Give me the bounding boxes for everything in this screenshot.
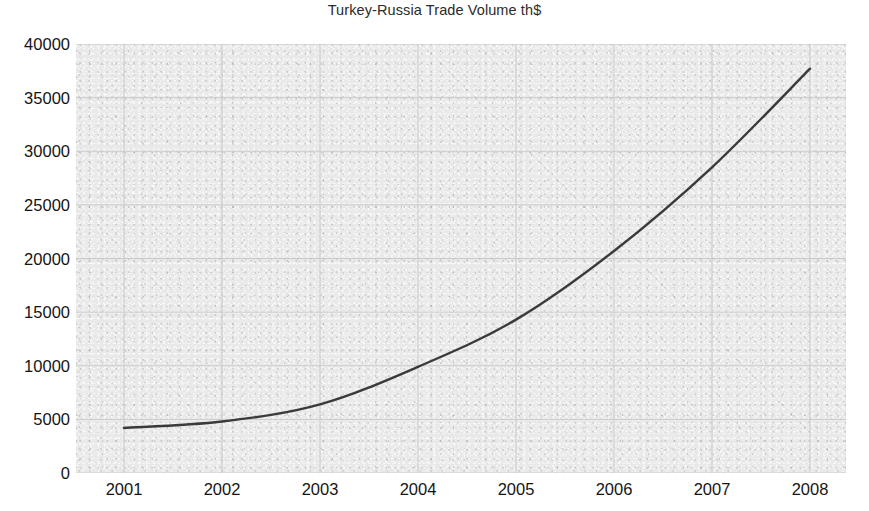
x-tick-label: 2004 bbox=[373, 481, 463, 498]
x-axis-tick-labels: 20012002200320042005200620072008 bbox=[0, 0, 869, 511]
x-tick-label: 2001 bbox=[79, 481, 169, 498]
x-tick-label: 2003 bbox=[275, 481, 365, 498]
x-tick-label: 2007 bbox=[667, 481, 757, 498]
chart-container: Turkey-Russia Trade Volume th$ 050001000… bbox=[0, 0, 869, 511]
x-tick-label: 2006 bbox=[569, 481, 659, 498]
x-tick-label: 2002 bbox=[177, 481, 267, 498]
x-tick-label: 2005 bbox=[471, 481, 561, 498]
x-tick-label: 2008 bbox=[765, 481, 855, 498]
